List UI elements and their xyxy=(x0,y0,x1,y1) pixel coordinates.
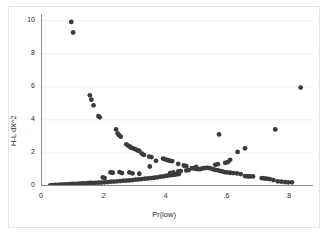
data-point xyxy=(251,174,256,179)
y-tick-label: 4 xyxy=(15,115,35,122)
data-point xyxy=(102,176,107,181)
scatter-plot-svg xyxy=(41,14,313,186)
data-point xyxy=(142,153,147,158)
data-point xyxy=(149,155,154,160)
y-tick-label: 0 xyxy=(15,181,35,188)
data-point xyxy=(273,127,278,132)
data-point xyxy=(89,97,94,102)
x-tick-label: .8 xyxy=(278,192,298,199)
data-point xyxy=(87,93,92,98)
x-tick-label: .4 xyxy=(155,192,175,199)
data-point xyxy=(238,172,243,177)
data-point xyxy=(147,164,152,169)
y-tick-label: 10 xyxy=(15,16,35,23)
data-point xyxy=(120,171,125,176)
y-axis-title: H-L dX^2 xyxy=(9,115,18,146)
x-tick-label: .6 xyxy=(216,192,236,199)
data-point xyxy=(170,159,175,164)
figure-canvas: 0246810 0.2.4.6.8 H-L dX^2 Pr(low) xyxy=(0,0,328,236)
data-point xyxy=(97,115,102,120)
data-point xyxy=(137,171,142,176)
gridlines xyxy=(41,21,313,186)
data-point xyxy=(171,170,176,175)
x-tick-label: .2 xyxy=(93,192,113,199)
y-tick-label: 2 xyxy=(15,148,35,155)
data-point xyxy=(118,134,123,139)
data-point xyxy=(176,161,181,166)
data-point xyxy=(228,157,233,162)
data-point xyxy=(154,158,159,163)
y-tick-label: 8 xyxy=(15,49,35,56)
x-axis-title: Pr(low) xyxy=(0,210,328,219)
plot-region xyxy=(41,14,313,186)
data-point xyxy=(215,162,220,167)
data-point xyxy=(91,103,96,108)
data-point xyxy=(130,171,135,176)
data-point xyxy=(298,85,303,90)
data-point xyxy=(71,30,76,35)
data-point xyxy=(69,20,74,25)
data-point xyxy=(217,132,222,137)
data-point xyxy=(243,146,248,151)
data-point xyxy=(194,164,199,169)
data-points xyxy=(48,20,303,186)
y-axis-title-wrap: H-L dX^2 xyxy=(0,60,12,150)
y-tick-label: 6 xyxy=(15,82,35,89)
data-point xyxy=(178,169,183,174)
axis-lines xyxy=(41,14,313,186)
data-point xyxy=(290,180,295,185)
data-point xyxy=(186,168,191,173)
x-tick-label: 0 xyxy=(31,192,51,199)
data-point xyxy=(271,178,276,183)
data-point xyxy=(184,164,189,169)
data-point xyxy=(235,150,240,155)
data-point xyxy=(110,170,115,175)
